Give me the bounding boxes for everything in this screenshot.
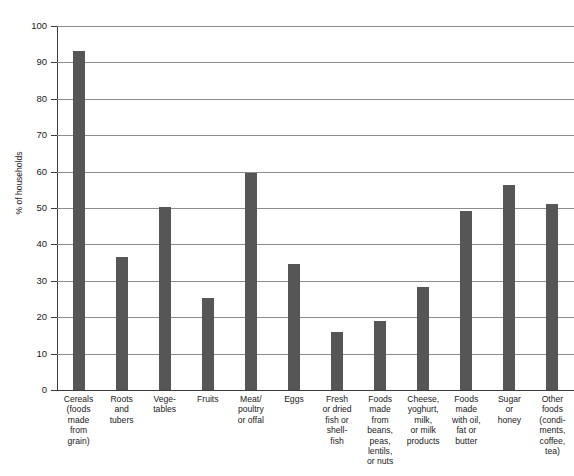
x-axis-label: Cheese, yoghurt, milk, or milk products xyxy=(402,394,445,446)
bar xyxy=(417,287,429,390)
y-tick-label-70: 70 xyxy=(4,130,47,140)
y-tick-label-40: 40 xyxy=(4,239,47,249)
gridline-0 xyxy=(57,390,574,391)
gridline-80 xyxy=(57,99,574,100)
y-tick-label-10: 10 xyxy=(4,349,47,359)
y-tick-label-100: 100 xyxy=(4,21,47,31)
y-tick-label-0: 0 xyxy=(4,385,47,395)
y-axis-title: % of households xyxy=(14,128,24,238)
y-tick-label-50: 50 xyxy=(4,203,47,213)
x-axis-label-group: Cereals (foods made from grain)Roots and… xyxy=(57,394,574,476)
gridline-10 xyxy=(57,354,574,355)
y-tick-label-90: 90 xyxy=(4,57,47,67)
x-axis-label: Meat/ poultry or offal xyxy=(229,394,272,425)
bar xyxy=(374,321,386,390)
y-tick-label-30: 30 xyxy=(4,276,47,286)
bar xyxy=(73,51,85,390)
y-tick-label-20: 20 xyxy=(4,312,47,322)
bar xyxy=(503,185,515,390)
bar xyxy=(202,298,214,390)
bar xyxy=(460,211,472,390)
y-tick-label-60: 60 xyxy=(4,167,47,177)
gridline-100 xyxy=(57,26,574,27)
x-axis-label: Fruits xyxy=(186,394,229,404)
x-axis-label: Vege- tables xyxy=(143,394,186,415)
gridline-40 xyxy=(57,244,574,245)
x-axis-label: Foods made from beans, peas, lentils, or… xyxy=(359,394,402,467)
gridline-70 xyxy=(57,135,574,136)
gridline-60 xyxy=(57,172,574,173)
gridline-30 xyxy=(57,281,574,282)
y-tick-label-80: 80 xyxy=(4,94,47,104)
gridline-20 xyxy=(57,317,574,318)
x-axis-label: Foods made with oil, fat or butter xyxy=(445,394,488,446)
bar xyxy=(331,332,343,390)
x-axis-label: Other foods (condi- ments, coffee, tea) xyxy=(531,394,574,456)
x-axis-label: Sugar or honey xyxy=(488,394,531,425)
gridline-50 xyxy=(57,208,574,209)
bar xyxy=(159,207,171,390)
bar xyxy=(245,173,257,390)
bar xyxy=(116,257,128,390)
x-axis-label: Roots and tubers xyxy=(100,394,143,425)
gridline-90 xyxy=(57,62,574,63)
x-axis-label: Cereals (foods made from grain) xyxy=(57,394,100,446)
bar-chart-figure: % of households 1009080706050403020100 C… xyxy=(0,0,574,476)
x-axis-label: Eggs xyxy=(272,394,315,404)
bar xyxy=(546,204,558,390)
plot-area xyxy=(57,26,574,390)
bar xyxy=(288,264,300,390)
x-axis-label: Fresh or dried fish or shell- fish xyxy=(316,394,359,446)
